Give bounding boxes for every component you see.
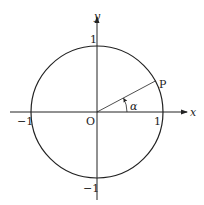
radius-op [97, 81, 155, 112]
y-axis-label: y [93, 10, 101, 23]
angle-arc [124, 98, 128, 112]
tick-y-neg: −1 [83, 182, 99, 195]
origin-label: O [86, 115, 95, 128]
angle-alpha-label: α [130, 100, 138, 113]
tick-x-pos: 1 [154, 115, 161, 128]
x-axis-label: x [190, 106, 197, 119]
tick-x-neg: −1 [17, 115, 33, 128]
unit-circle-diagram: x y O 1 −1 1 −1 P α [0, 0, 204, 205]
tick-y-pos: 1 [90, 33, 97, 46]
point-p-label: P [159, 78, 167, 91]
